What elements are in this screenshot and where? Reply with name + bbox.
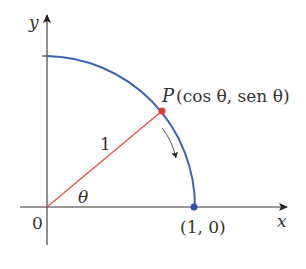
radius-line bbox=[47, 111, 162, 207]
point-p-name: P bbox=[161, 85, 175, 106]
y-axis-label: y bbox=[28, 12, 39, 32]
direction-arrow-icon bbox=[162, 128, 176, 158]
point-1-0-label: (1, 0) bbox=[180, 217, 226, 237]
angle-label: θ bbox=[78, 187, 88, 207]
point-1-0 bbox=[191, 204, 198, 211]
point-p-coords: (cos θ, sen θ) bbox=[176, 86, 290, 106]
origin-label: 0 bbox=[32, 213, 43, 233]
point-p bbox=[159, 108, 166, 115]
radius-label: 1 bbox=[100, 134, 111, 154]
unit-circle-diagram: y x 0 1 θ P (cos θ, sen θ) (1, 0) bbox=[0, 0, 306, 269]
unit-circle-arc bbox=[47, 56, 195, 207]
x-axis-label: x bbox=[277, 211, 287, 231]
